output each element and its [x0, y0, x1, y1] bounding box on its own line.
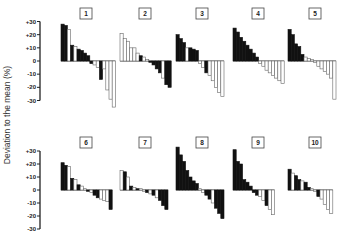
y-tick-label: +10 [26, 174, 37, 180]
bar [214, 190, 217, 208]
bar [83, 53, 86, 61]
bar [90, 190, 93, 193]
bar [317, 190, 320, 197]
bar [64, 165, 67, 190]
bar [259, 61, 262, 64]
bar [152, 190, 155, 195]
panel-label: 7 [143, 139, 147, 146]
bar [99, 61, 102, 79]
y-tick-label: +20 [26, 161, 37, 167]
panel-3: 3 [176, 8, 224, 97]
bar [139, 189, 142, 190]
bar [130, 48, 133, 61]
bar [109, 61, 112, 99]
bar [294, 44, 297, 61]
deviation-chart: Deviation to the mean (%) +30+20+100-10-… [0, 0, 343, 239]
panel-label: 8 [200, 139, 204, 146]
bar [233, 28, 236, 61]
panel-9: 9 [233, 137, 275, 215]
bar [304, 57, 307, 61]
bar [142, 190, 145, 191]
bar [109, 190, 112, 210]
bar [291, 35, 294, 61]
bar [136, 189, 139, 190]
bar [275, 61, 278, 78]
bar [271, 61, 274, 75]
bar [123, 172, 126, 190]
y-tick-label: +30 [26, 19, 37, 25]
bar [307, 187, 310, 190]
y-tick-label: +20 [26, 32, 37, 38]
panel-label: 6 [84, 139, 88, 146]
bar [314, 190, 317, 191]
bar [130, 186, 133, 190]
bar [189, 177, 192, 190]
bar [155, 61, 158, 69]
bar [218, 190, 221, 213]
bar [142, 57, 145, 61]
y-tick-label: -20 [27, 84, 36, 90]
bar [236, 32, 239, 61]
y-tick-label: -10 [27, 200, 36, 206]
bar [93, 190, 96, 195]
bar [168, 61, 171, 87]
bar [83, 189, 86, 190]
y-tick-label: +30 [26, 148, 37, 154]
panel-label: 10 [311, 139, 319, 146]
bar [294, 176, 297, 190]
bar [87, 56, 90, 61]
bar [243, 180, 246, 190]
bar [249, 49, 252, 61]
bar [179, 39, 182, 61]
bar [136, 53, 139, 61]
bar [106, 190, 109, 202]
bar [310, 60, 313, 61]
bar [189, 48, 192, 61]
panel-label: 9 [256, 139, 260, 146]
bar [301, 54, 304, 61]
bar [317, 61, 320, 66]
bar [152, 61, 155, 65]
bar [195, 50, 198, 61]
panel-label: 3 [200, 10, 204, 17]
bar [265, 61, 268, 70]
bar [218, 61, 221, 93]
bar [90, 61, 93, 64]
bar [211, 190, 214, 203]
bar [288, 169, 291, 190]
bar [182, 43, 185, 61]
bar [176, 147, 179, 190]
bar [202, 61, 205, 68]
bar [74, 47, 77, 61]
bar [291, 173, 294, 190]
bar [320, 190, 323, 199]
bar [120, 171, 123, 191]
bar [333, 61, 336, 99]
bar [71, 45, 74, 61]
bar [214, 61, 217, 87]
panel-label: 2 [143, 10, 147, 17]
bar [120, 33, 123, 61]
panel-label: 4 [256, 10, 260, 17]
bar [208, 61, 211, 75]
bar [205, 190, 208, 195]
bar [99, 190, 102, 199]
bar [243, 41, 246, 61]
bar [246, 182, 249, 190]
bar [278, 61, 281, 81]
bar [221, 190, 224, 219]
bar [103, 190, 106, 200]
bar [126, 41, 129, 61]
panel-4: 4 [233, 8, 284, 83]
y-tick-label: 0 [33, 58, 37, 64]
bar [192, 181, 195, 190]
bar [96, 61, 99, 68]
bar [271, 190, 274, 215]
bar [186, 48, 189, 61]
bar [246, 45, 249, 61]
bar [80, 50, 83, 61]
bar [77, 185, 80, 190]
panel-8: 8 [176, 137, 224, 219]
bar [112, 61, 115, 107]
bar [268, 61, 271, 73]
